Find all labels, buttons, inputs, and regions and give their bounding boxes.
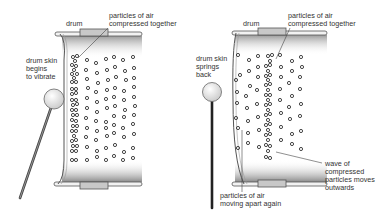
label-apart-2: moving apart again: [220, 199, 281, 208]
label-skin-left-3: to vibrate: [26, 72, 56, 81]
air-particles: [234, 53, 303, 150]
panel-left: drum particles of air compressed togethe…: [20, 11, 177, 198]
label-compressed-right-2: compressed together: [288, 19, 356, 28]
drum-top-shade: [62, 36, 142, 58]
label-drum-right: drum: [243, 19, 259, 28]
drum-bottom-shade: [62, 160, 142, 182]
drum-bottom-shade: [235, 160, 327, 182]
drumstick-head: [203, 83, 222, 102]
drumstick-head: [44, 89, 64, 109]
compressed-wave-particles: [264, 53, 273, 159]
drum-bottom-lug: [80, 182, 108, 189]
panel-right: drum particles of air compressed togethe…: [196, 11, 375, 208]
drum-bottom-lug: [258, 180, 286, 187]
drumstick-highlight: [20, 102, 53, 198]
label-wave-4: outwards: [325, 183, 355, 192]
air-particles: [84, 55, 136, 161]
drum-top-lug: [258, 28, 286, 35]
drum-top-shade: [235, 35, 327, 55]
drum-sound-diagram: drum particles of air compressed togethe…: [0, 0, 386, 221]
label-compressed-left-2: compressed together: [109, 19, 177, 28]
compressed-particles: [70, 54, 78, 161]
label-drum-left: drum: [66, 19, 82, 28]
label-skin-right-3: back: [196, 70, 212, 79]
